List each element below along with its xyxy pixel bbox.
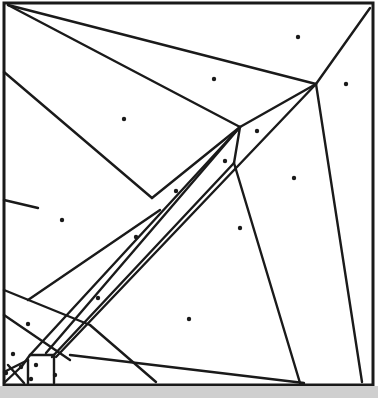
cell-edge: [52, 163, 234, 357]
cell-edge: [234, 163, 300, 383]
site-point: [53, 373, 57, 377]
site-point: [292, 176, 296, 180]
voronoi-diagram: [0, 0, 378, 398]
cell-edge: [316, 8, 370, 84]
site-point: [344, 82, 348, 86]
cell-edge: [8, 5, 316, 84]
cell-edge: [4, 290, 90, 325]
site-point: [187, 317, 191, 321]
cell-edge: [152, 127, 240, 198]
diagram-canvas: [0, 0, 378, 398]
site-point: [122, 117, 126, 121]
cell-edges: [4, 5, 370, 383]
site-point: [29, 377, 33, 381]
site-point: [34, 363, 38, 367]
site-point: [96, 296, 100, 300]
cell-edge: [316, 84, 362, 382]
cell-edge: [90, 325, 156, 382]
site-point: [26, 322, 30, 326]
site-point: [212, 77, 216, 81]
site-points: [4, 35, 348, 381]
cell-edge: [240, 84, 316, 127]
site-point: [296, 35, 300, 39]
site-point: [19, 365, 23, 369]
cell-edge: [4, 200, 38, 208]
frame-border: [4, 3, 373, 385]
site-point: [11, 352, 15, 356]
site-point: [60, 218, 64, 222]
site-point: [238, 226, 242, 230]
cell-edge: [8, 5, 240, 127]
site-point: [255, 129, 259, 133]
site-point: [223, 159, 227, 163]
site-point: [4, 371, 8, 375]
site-point: [134, 235, 138, 239]
cell-edge: [56, 84, 316, 357]
cell-edge: [4, 72, 152, 198]
cell-edge: [30, 127, 240, 355]
cell-edge: [70, 355, 304, 383]
site-point: [174, 189, 178, 193]
bottom-margin: [0, 386, 378, 398]
